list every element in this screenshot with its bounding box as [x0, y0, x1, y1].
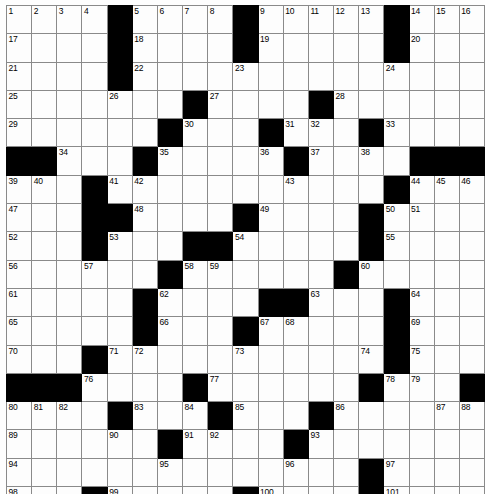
crossword-cell[interactable]	[157, 402, 182, 430]
crossword-cell[interactable]	[82, 288, 107, 316]
crossword-cell[interactable]: 61	[7, 288, 32, 316]
crossword-cell[interactable]	[132, 260, 157, 288]
crossword-cell[interactable]	[183, 175, 208, 203]
crossword-cell[interactable]	[57, 345, 82, 373]
crossword-cell[interactable]: 1	[7, 6, 32, 34]
crossword-cell[interactable]: 45	[434, 175, 459, 203]
crossword-cell[interactable]	[107, 458, 132, 486]
crossword-cell[interactable]: 95	[157, 458, 182, 486]
crossword-cell[interactable]	[183, 34, 208, 62]
crossword-cell[interactable]	[409, 487, 434, 494]
crossword-cell[interactable]	[359, 317, 384, 345]
crossword-cell[interactable]	[308, 458, 333, 486]
crossword-cell[interactable]	[32, 119, 57, 147]
crossword-cell[interactable]	[233, 90, 258, 118]
crossword-cell[interactable]: 22	[132, 62, 157, 90]
crossword-cell[interactable]: 3	[57, 6, 82, 34]
crossword-cell[interactable]: 92	[208, 430, 233, 458]
crossword-cell[interactable]	[107, 373, 132, 401]
crossword-cell[interactable]	[32, 430, 57, 458]
crossword-cell[interactable]	[183, 288, 208, 316]
crossword-cell[interactable]	[308, 373, 333, 401]
crossword-cell[interactable]: 54	[233, 232, 258, 260]
crossword-cell[interactable]	[132, 487, 157, 494]
crossword-cell[interactable]	[157, 487, 182, 494]
crossword-cell[interactable]	[157, 204, 182, 232]
crossword-cell[interactable]	[283, 204, 308, 232]
crossword-cell[interactable]	[308, 175, 333, 203]
crossword-cell[interactable]	[233, 430, 258, 458]
crossword-cell[interactable]	[384, 147, 409, 175]
crossword-cell[interactable]	[308, 487, 333, 494]
crossword-cell[interactable]	[183, 345, 208, 373]
crossword-cell[interactable]	[82, 119, 107, 147]
crossword-cell[interactable]	[183, 487, 208, 494]
crossword-cell[interactable]	[283, 232, 308, 260]
crossword-cell[interactable]	[334, 430, 359, 458]
crossword-cell[interactable]: 80	[7, 402, 32, 430]
crossword-cell[interactable]	[208, 62, 233, 90]
crossword-cell[interactable]	[208, 487, 233, 494]
crossword-cell[interactable]	[57, 288, 82, 316]
crossword-cell[interactable]: 51	[409, 204, 434, 232]
crossword-cell[interactable]: 91	[183, 430, 208, 458]
crossword-cell[interactable]	[132, 373, 157, 401]
crossword-cell[interactable]	[283, 345, 308, 373]
crossword-cell[interactable]: 27	[208, 90, 233, 118]
crossword-cell[interactable]	[107, 119, 132, 147]
crossword-cell[interactable]: 98	[7, 487, 32, 494]
crossword-cell[interactable]	[82, 147, 107, 175]
crossword-cell[interactable]	[283, 260, 308, 288]
crossword-cell[interactable]: 67	[258, 317, 283, 345]
crossword-cell[interactable]	[459, 458, 484, 486]
crossword-cell[interactable]: 40	[32, 175, 57, 203]
crossword-cell[interactable]	[57, 430, 82, 458]
crossword-cell[interactable]	[208, 317, 233, 345]
crossword-cell[interactable]	[459, 62, 484, 90]
crossword-cell[interactable]: 66	[157, 317, 182, 345]
crossword-cell[interactable]: 93	[308, 430, 333, 458]
crossword-cell[interactable]	[208, 119, 233, 147]
crossword-cell[interactable]	[384, 430, 409, 458]
crossword-cell[interactable]: 48	[132, 204, 157, 232]
crossword-cell[interactable]: 71	[107, 345, 132, 373]
crossword-cell[interactable]	[409, 232, 434, 260]
crossword-cell[interactable]	[32, 260, 57, 288]
crossword-cell[interactable]	[434, 62, 459, 90]
crossword-cell[interactable]	[258, 175, 283, 203]
crossword-cell[interactable]	[233, 147, 258, 175]
crossword-cell[interactable]: 77	[208, 373, 233, 401]
crossword-cell[interactable]	[409, 90, 434, 118]
crossword-cell[interactable]	[409, 402, 434, 430]
crossword-cell[interactable]	[82, 34, 107, 62]
crossword-cell[interactable]	[82, 317, 107, 345]
crossword-cell[interactable]: 25	[7, 90, 32, 118]
crossword-cell[interactable]	[308, 260, 333, 288]
crossword-cell[interactable]: 43	[283, 175, 308, 203]
crossword-cell[interactable]	[233, 119, 258, 147]
crossword-cell[interactable]: 30	[183, 119, 208, 147]
crossword-cell[interactable]	[409, 260, 434, 288]
crossword-cell[interactable]: 62	[157, 288, 182, 316]
crossword-cell[interactable]	[82, 430, 107, 458]
crossword-cell[interactable]	[434, 345, 459, 373]
crossword-cell[interactable]	[334, 204, 359, 232]
crossword-cell[interactable]: 73	[233, 345, 258, 373]
crossword-cell[interactable]	[434, 487, 459, 494]
crossword-cell[interactable]: 49	[258, 204, 283, 232]
crossword-cell[interactable]	[157, 90, 182, 118]
crossword-cell[interactable]	[334, 458, 359, 486]
crossword-cell[interactable]: 55	[384, 232, 409, 260]
crossword-cell[interactable]: 47	[7, 204, 32, 232]
crossword-cell[interactable]	[459, 232, 484, 260]
crossword-cell[interactable]	[32, 232, 57, 260]
crossword-cell[interactable]: 36	[258, 147, 283, 175]
crossword-cell[interactable]: 4	[82, 6, 107, 34]
crossword-cell[interactable]: 18	[132, 34, 157, 62]
crossword-cell[interactable]: 100	[258, 487, 283, 494]
crossword-cell[interactable]	[308, 34, 333, 62]
crossword-cell[interactable]	[434, 430, 459, 458]
crossword-cell[interactable]: 85	[233, 402, 258, 430]
crossword-cell[interactable]: 17	[7, 34, 32, 62]
crossword-cell[interactable]	[409, 119, 434, 147]
